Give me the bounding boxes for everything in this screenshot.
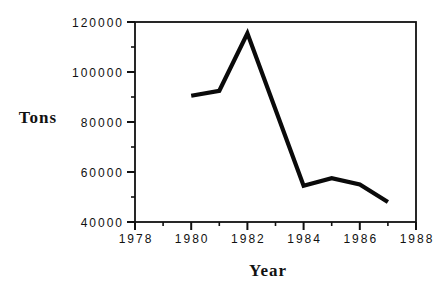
y-tick-label: 40000: [81, 216, 124, 230]
data-line-series: [191, 33, 388, 202]
x-axis-title: Year: [249, 261, 287, 280]
chart-canvas: 4000060000800001000001200001978198019821…: [0, 0, 446, 291]
x-tick-label: 1978: [119, 232, 154, 246]
y-tick-label: 60000: [81, 166, 124, 180]
chart: 4000060000800001000001200001978198019821…: [0, 0, 446, 291]
x-tick-label: 1980: [175, 232, 210, 246]
y-tick-label: 80000: [81, 116, 124, 130]
y-tick-label: 100000: [72, 66, 124, 80]
y-tick-label: 120000: [72, 16, 124, 30]
x-tick-label: 1982: [231, 232, 266, 246]
x-tick-label: 1984: [287, 232, 322, 246]
x-tick-label: 1986: [343, 232, 378, 246]
y-axis-title: Tons: [19, 108, 57, 127]
x-tick-label: 1988: [400, 232, 435, 246]
